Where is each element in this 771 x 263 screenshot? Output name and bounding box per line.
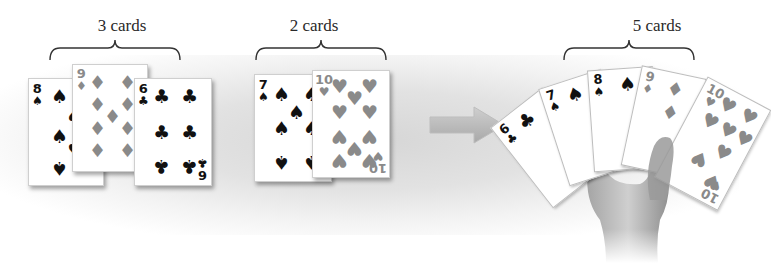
group-label: 5 cards xyxy=(597,16,717,36)
brace-icon xyxy=(48,38,182,62)
card-fan: 6♣ ♣ 7♠ ♠ ♠ 8♠ ♠ ♠ 9♦ ♦ ♦ 10♥ 10♥ ♥ ♥ ♥ … xyxy=(520,60,740,260)
group-label: 2 cards xyxy=(254,16,374,36)
brace-icon xyxy=(562,38,696,62)
card-10-hearts: 10♥ 10♥ ♥ ♥ ♥ ♥ ♥ ♥ ♥ ♥ ♥ ♥ xyxy=(312,70,390,178)
thumb-icon xyxy=(640,132,680,202)
card-6-clubs: 6♣ 6♣ ♣ ♣ ♣ ♣ ♣ ♣ xyxy=(134,78,212,186)
brace-icon xyxy=(254,38,388,62)
group-label: 3 cards xyxy=(62,16,182,36)
